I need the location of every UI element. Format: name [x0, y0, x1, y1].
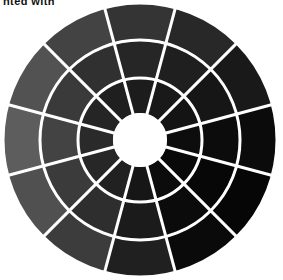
figure-root: nted with [0, 0, 283, 280]
wheel-wedge[interactable] [105, 3, 176, 43]
wheel-wedge[interactable] [237, 105, 277, 176]
hub-circle [113, 113, 167, 167]
color-wheel-chart [0, 0, 283, 280]
wheel-wedge[interactable] [3, 105, 43, 176]
wheel-wedge[interactable] [105, 237, 176, 277]
